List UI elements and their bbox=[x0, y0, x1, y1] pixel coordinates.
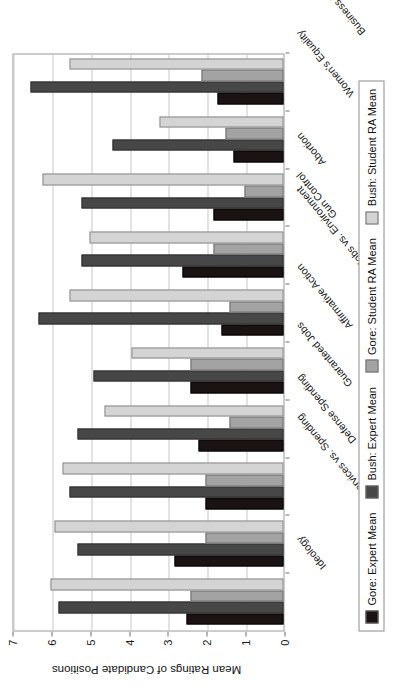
bar bbox=[69, 289, 283, 301]
bar bbox=[54, 520, 283, 532]
category-tick bbox=[285, 514, 289, 515]
category-label: Women's Equality bbox=[293, 28, 356, 100]
category-tick bbox=[285, 457, 289, 458]
bar bbox=[112, 139, 283, 151]
bar bbox=[131, 347, 283, 359]
bar bbox=[38, 312, 283, 324]
category-label: Ideology bbox=[293, 534, 328, 572]
bar-group bbox=[13, 231, 283, 277]
value-tick-mark bbox=[51, 631, 52, 636]
value-tick-mark bbox=[167, 631, 168, 636]
bar bbox=[77, 543, 283, 555]
value-tick-mark bbox=[245, 631, 246, 636]
value-tick-mark bbox=[90, 631, 91, 636]
value-tick-mark bbox=[129, 631, 130, 636]
legend-swatch bbox=[365, 211, 378, 224]
bar bbox=[50, 578, 283, 590]
category-tick bbox=[285, 399, 289, 400]
category-tick bbox=[285, 283, 289, 284]
bar bbox=[190, 358, 283, 370]
bar bbox=[225, 127, 283, 139]
value-tick-mark bbox=[284, 631, 285, 636]
value-tick-label: 5 bbox=[84, 639, 96, 645]
value-tick-mark bbox=[12, 631, 13, 636]
bar bbox=[81, 254, 283, 266]
bar bbox=[229, 416, 283, 428]
bar bbox=[198, 439, 283, 451]
bar bbox=[62, 462, 283, 474]
bar bbox=[201, 69, 283, 81]
bar bbox=[159, 116, 283, 128]
legend-label: Bush: Expert Mean bbox=[365, 387, 377, 481]
value-tick-label: 4 bbox=[123, 639, 135, 645]
bar bbox=[69, 486, 283, 498]
bar bbox=[213, 243, 283, 255]
category-tick bbox=[285, 341, 289, 342]
legend-label: Gore: Expert Mean bbox=[365, 512, 377, 605]
bar-group bbox=[13, 578, 283, 624]
bar bbox=[69, 58, 283, 70]
bar bbox=[205, 532, 283, 544]
bar bbox=[174, 555, 283, 567]
bar bbox=[42, 173, 283, 185]
value-tick-label: 2 bbox=[200, 639, 212, 645]
bar bbox=[93, 370, 283, 382]
bar bbox=[182, 266, 283, 278]
bar bbox=[89, 231, 283, 243]
category-tick bbox=[285, 572, 289, 573]
bar bbox=[58, 601, 283, 613]
chart-figure: Mean Ratings of Candidate Positions 0123… bbox=[0, 0, 396, 687]
bar-group bbox=[13, 116, 283, 162]
bars-layer bbox=[13, 54, 283, 630]
bar bbox=[186, 613, 283, 625]
value-tick-label: 7 bbox=[6, 639, 18, 645]
value-tick-label: 6 bbox=[45, 639, 57, 645]
value-tick-label: 3 bbox=[161, 639, 173, 645]
legend-entry[interactable]: Gore: Expert Mean bbox=[365, 512, 378, 623]
bar bbox=[221, 324, 283, 336]
value-tick-label: 0 bbox=[278, 639, 290, 645]
bar-group bbox=[13, 58, 283, 104]
bar bbox=[229, 301, 283, 313]
category-label: Abortion bbox=[293, 130, 327, 168]
category-tick bbox=[285, 52, 289, 53]
value-tick-label: 1 bbox=[239, 639, 251, 645]
bar bbox=[233, 150, 284, 162]
bar-group bbox=[13, 173, 283, 219]
category-label: Jobs vs. Environment bbox=[293, 184, 367, 269]
legend-entry[interactable]: Bush: Student RA Mean bbox=[365, 88, 378, 223]
bar-group bbox=[13, 462, 283, 508]
bar bbox=[244, 185, 283, 197]
legend-label: Gore: Student RA Mean bbox=[365, 238, 377, 355]
bar bbox=[30, 81, 283, 93]
value-axis: Mean Ratings of Candidate Positions 0123… bbox=[12, 631, 284, 687]
bar bbox=[77, 428, 283, 440]
category-tick bbox=[285, 110, 289, 111]
bar-group bbox=[13, 405, 283, 451]
bar bbox=[205, 497, 283, 509]
legend-swatch bbox=[365, 360, 378, 373]
bar bbox=[213, 208, 283, 220]
bar bbox=[104, 405, 283, 417]
legend-label: Bush: Student RA Mean bbox=[365, 88, 377, 205]
value-axis-title: Mean Ratings of Candidate Positions bbox=[10, 663, 282, 675]
category-tick bbox=[285, 225, 289, 226]
value-tick-mark bbox=[206, 631, 207, 636]
plot-area bbox=[12, 53, 284, 631]
bar bbox=[190, 590, 283, 602]
bar-group bbox=[13, 289, 283, 335]
bar bbox=[190, 381, 283, 393]
bar-group bbox=[13, 520, 283, 566]
legend-swatch bbox=[365, 610, 378, 623]
legend-entry[interactable]: Bush: Expert Mean bbox=[365, 387, 378, 499]
bar bbox=[205, 474, 283, 486]
bar bbox=[217, 92, 283, 104]
legend-entry[interactable]: Gore: Student RA Mean bbox=[365, 238, 378, 373]
legend-swatch bbox=[365, 485, 378, 498]
chart-legend: Gore: Expert MeanBush: Expert MeanGore: … bbox=[358, 80, 384, 631]
bar bbox=[81, 197, 283, 209]
category-tick bbox=[285, 168, 289, 169]
bar-group bbox=[13, 347, 283, 393]
